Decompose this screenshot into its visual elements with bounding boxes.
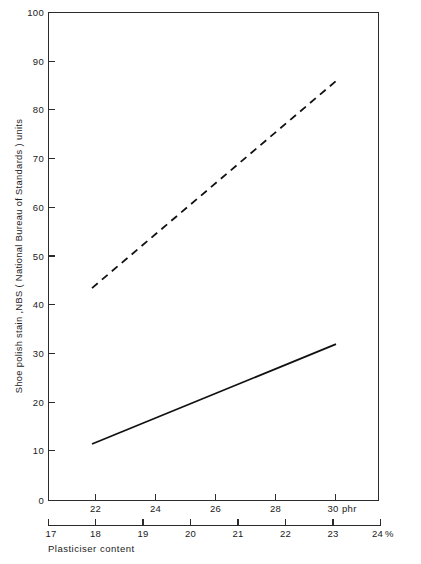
phr-axis-tick-labels: 22 24 26 28 30 phr bbox=[90, 503, 357, 514]
y-tick-label-70: 70 bbox=[33, 153, 44, 164]
y-tick-label-50: 50 bbox=[33, 251, 44, 262]
percent-tick-label-23: 23 bbox=[327, 528, 338, 539]
y-tick-label-10: 10 bbox=[33, 445, 44, 456]
percent-tick-label-18: 18 bbox=[90, 528, 101, 539]
data-series-dashed bbox=[92, 81, 336, 288]
percent-tick-label-22: 22 bbox=[280, 528, 291, 539]
y-tick-label-20: 20 bbox=[33, 397, 44, 408]
y-axis-tick-labels: 100 90 80 70 60 50 40 30 20 10 0 bbox=[27, 7, 44, 506]
percent-axis-line bbox=[49, 519, 381, 526]
percent-axis-tick-labels: 17 18 19 20 21 22 23 24 % bbox=[45, 528, 394, 539]
percent-tick-label-20: 20 bbox=[185, 528, 196, 539]
percent-unit-label: % bbox=[385, 528, 394, 539]
percent-tick-label-19: 19 bbox=[137, 528, 148, 539]
figure-container: 100 90 80 70 60 50 40 30 20 10 0 Shoe po… bbox=[0, 0, 421, 564]
data-series-solid bbox=[92, 344, 336, 444]
y-tick-label-30: 30 bbox=[33, 348, 44, 359]
y-axis-title: Shoe polish stain ,NBS ( National Bureau… bbox=[14, 119, 24, 394]
phr-tick-label-26: 26 bbox=[210, 503, 221, 514]
y-tick-label-60: 60 bbox=[33, 202, 44, 213]
y-axis-ticks bbox=[49, 13, 55, 451]
percent-tick-label-17: 17 bbox=[45, 528, 56, 539]
percent-axis-ticks bbox=[96, 519, 334, 526]
y-tick-label-40: 40 bbox=[33, 299, 44, 310]
phr-tick-label-28: 28 bbox=[270, 503, 281, 514]
phr-unit-label: phr bbox=[342, 503, 357, 514]
phr-tick-label-22: 22 bbox=[90, 503, 101, 514]
phr-axis-ticks bbox=[96, 494, 336, 501]
percent-tick-label-21: 21 bbox=[232, 528, 243, 539]
x-axis-title: Plasticiser content bbox=[48, 543, 135, 554]
plot-frame bbox=[49, 13, 379, 501]
phr-tick-label-30: 30 bbox=[327, 503, 338, 514]
percent-tick-label-24: 24 bbox=[372, 528, 383, 539]
chart-canvas: 100 90 80 70 60 50 40 30 20 10 0 Shoe po… bbox=[0, 0, 421, 564]
y-tick-label-90: 90 bbox=[33, 56, 44, 67]
phr-tick-label-24: 24 bbox=[150, 503, 161, 514]
y-tick-label-100: 100 bbox=[27, 7, 44, 18]
y-tick-label-80: 80 bbox=[33, 104, 44, 115]
y-tick-label-0: 0 bbox=[38, 495, 44, 506]
